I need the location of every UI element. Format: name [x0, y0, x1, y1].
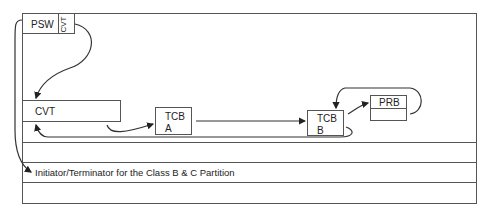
tcb-b-to-prb-arrow [348, 103, 368, 114]
psw-to-cvt-arrow [36, 24, 91, 98]
prb-to-tcb-b-loop-arrow [336, 88, 421, 114]
tcb-b-to-cvt-return-arrow [36, 125, 352, 137]
cvt-to-tcb-a-arrow [107, 124, 153, 132]
connector-arrows [0, 0, 491, 213]
psw-to-partition-arrow [15, 20, 31, 172]
